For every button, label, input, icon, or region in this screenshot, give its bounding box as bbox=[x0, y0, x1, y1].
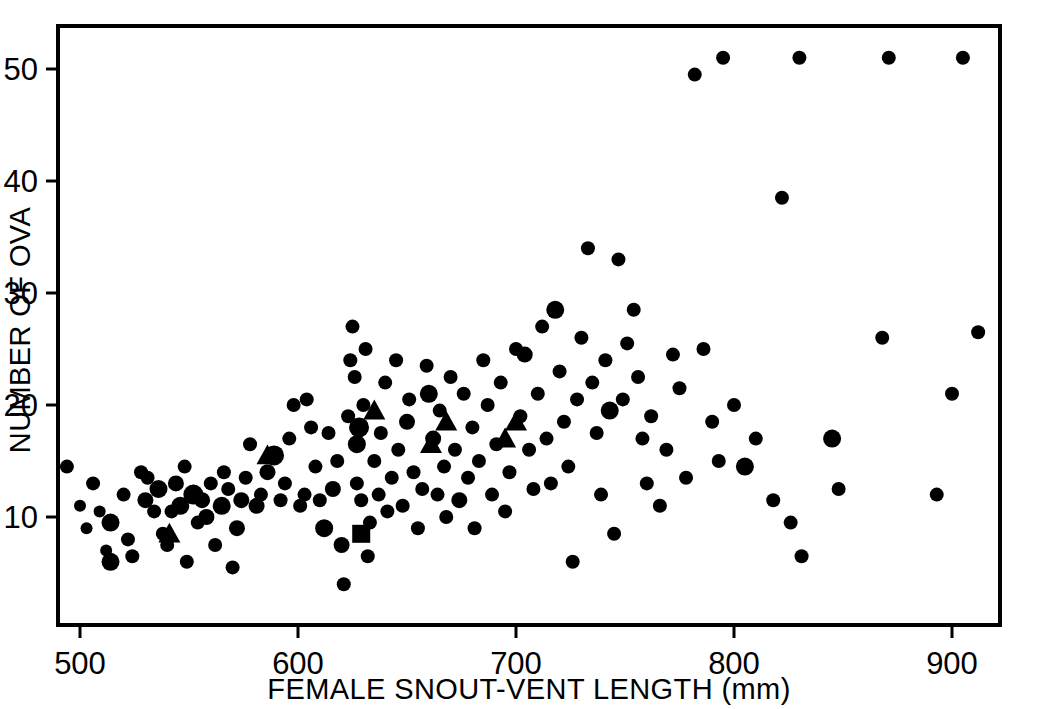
data-point-circle bbox=[749, 432, 763, 446]
data-point-circle bbox=[832, 482, 846, 496]
data-point-circle bbox=[544, 476, 558, 490]
data-point-circle bbox=[399, 414, 415, 430]
data-point-circle bbox=[221, 482, 235, 496]
data-point-circle bbox=[494, 376, 508, 390]
y-tick-label: 40 bbox=[4, 164, 38, 199]
data-point-circle bbox=[535, 320, 549, 334]
data-point-circle bbox=[485, 488, 499, 502]
data-point-circle bbox=[590, 426, 604, 440]
data-point-circle bbox=[945, 387, 959, 401]
data-point-circle bbox=[411, 521, 425, 535]
axis-box bbox=[58, 26, 1000, 625]
data-point-circle bbox=[213, 497, 231, 515]
data-point-circle bbox=[557, 415, 571, 429]
data-point-circle bbox=[736, 458, 754, 476]
data-point-circle bbox=[531, 387, 545, 401]
data-point-circle bbox=[389, 353, 403, 367]
data-point-circle bbox=[553, 364, 567, 378]
data-point-circle bbox=[198, 509, 214, 525]
data-point-circle bbox=[304, 420, 318, 434]
data-point-circle bbox=[180, 555, 194, 569]
data-point-circle bbox=[574, 331, 588, 345]
data-point-circle bbox=[354, 493, 368, 507]
data-point-circle bbox=[254, 488, 268, 502]
data-point-circle bbox=[644, 409, 658, 423]
data-point-circle bbox=[546, 301, 564, 319]
data-point-circle bbox=[673, 381, 687, 395]
data-point-circle bbox=[194, 492, 210, 508]
data-point-circle bbox=[705, 415, 719, 429]
data-point-circle bbox=[359, 342, 373, 356]
y-tick-label: 10 bbox=[4, 500, 38, 535]
data-point-circle bbox=[313, 493, 327, 507]
y-tick-label: 50 bbox=[4, 52, 38, 87]
data-point-circle bbox=[396, 499, 410, 513]
data-point-circle bbox=[716, 51, 730, 65]
data-point-circle bbox=[407, 465, 421, 479]
data-point-circle bbox=[502, 465, 516, 479]
x-tick-label: 900 bbox=[926, 646, 978, 681]
data-point-circle bbox=[348, 370, 362, 384]
data-point-circle bbox=[823, 430, 841, 448]
data-point-circle bbox=[688, 68, 702, 82]
data-point-circle bbox=[259, 464, 275, 480]
data-point-circle bbox=[465, 420, 479, 434]
data-point-circle bbox=[349, 417, 369, 437]
data-point-circle bbox=[300, 392, 314, 406]
data-point-circle bbox=[481, 398, 495, 412]
data-point-circle bbox=[696, 342, 710, 356]
y-axis-title: NUMBER OF OVA bbox=[4, 207, 36, 454]
data-point-circle bbox=[287, 398, 301, 412]
data-point-circle bbox=[402, 392, 416, 406]
data-point-circle bbox=[775, 191, 789, 205]
data-point-circle bbox=[391, 443, 405, 457]
data-point-circle bbox=[168, 475, 184, 491]
data-point-circle bbox=[226, 560, 240, 574]
data-point-circle bbox=[451, 492, 467, 508]
data-point-square bbox=[352, 525, 370, 543]
data-point-circle bbox=[74, 500, 86, 512]
data-point-circle bbox=[322, 426, 336, 440]
data-point-circle bbox=[594, 488, 608, 502]
data-point-circle bbox=[420, 359, 434, 373]
data-point-circle bbox=[343, 353, 357, 367]
data-point-circle bbox=[233, 492, 249, 508]
data-point-circle bbox=[348, 435, 366, 453]
data-point-circle bbox=[640, 476, 654, 490]
data-point-circle bbox=[81, 522, 93, 534]
data-point-circle bbox=[784, 516, 798, 530]
data-point-circle bbox=[607, 527, 621, 541]
data-point-circle bbox=[472, 454, 486, 468]
data-point-circle bbox=[315, 519, 333, 537]
data-point-circle bbox=[380, 504, 394, 518]
x-tick-label: 500 bbox=[54, 646, 106, 681]
data-point-circle bbox=[766, 493, 780, 507]
data-point-circle bbox=[461, 471, 475, 485]
data-point-circle bbox=[330, 454, 344, 468]
data-point-circle bbox=[149, 480, 167, 498]
data-point-circle bbox=[102, 553, 120, 571]
data-point-circle bbox=[437, 460, 451, 474]
data-point-circle bbox=[178, 460, 192, 474]
data-point-circle bbox=[561, 460, 575, 474]
data-point-circle bbox=[653, 499, 667, 513]
data-point-circle bbox=[282, 432, 296, 446]
x-axis-title: FEMALE SNOUT-VENT LENGTH (mm) bbox=[267, 673, 790, 705]
data-point-circle bbox=[444, 370, 458, 384]
data-point-circle bbox=[616, 392, 630, 406]
data-point-circle bbox=[415, 482, 429, 496]
data-point-circle bbox=[308, 460, 322, 474]
data-point-circle bbox=[956, 51, 970, 65]
data-point-circle bbox=[875, 331, 889, 345]
data-point-circle bbox=[627, 303, 641, 317]
data-point-circle bbox=[517, 347, 533, 363]
data-point-circle bbox=[356, 398, 370, 412]
data-point-circle bbox=[367, 454, 381, 468]
plot-canvas: 1020304050 500600700800900 FEMALE SNOUT-… bbox=[0, 0, 1042, 709]
data-point-circle bbox=[526, 482, 540, 496]
data-point-circle bbox=[86, 476, 100, 490]
data-point-circle bbox=[274, 493, 288, 507]
data-point-circle bbox=[457, 387, 471, 401]
data-point-circle bbox=[498, 504, 512, 518]
data-point-circle bbox=[420, 385, 438, 403]
